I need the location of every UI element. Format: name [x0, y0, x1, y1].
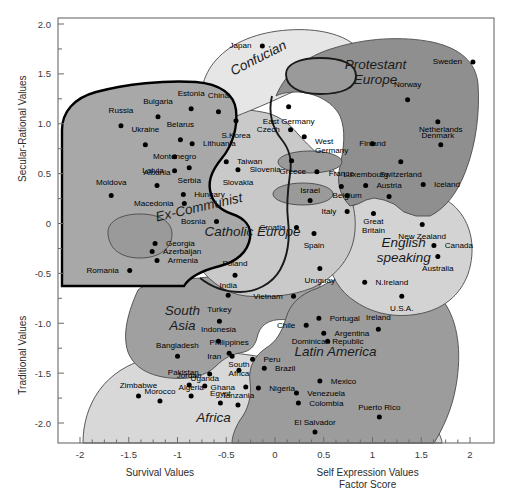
point-marker[interactable]	[136, 394, 141, 399]
point-marker[interactable]	[233, 273, 238, 278]
point-label: Peru	[263, 355, 280, 364]
point-marker[interactable]	[224, 159, 229, 164]
country-point[interactable]: Montenegro	[153, 152, 197, 161]
point-marker[interactable]	[250, 357, 255, 362]
point-label: Ireland	[366, 313, 391, 322]
point-marker[interactable]	[127, 268, 132, 273]
point-marker[interactable]	[234, 118, 239, 123]
point-marker[interactable]	[376, 327, 381, 332]
point-marker[interactable]	[243, 385, 248, 390]
point-marker[interactable]	[317, 379, 322, 384]
point-marker[interactable]	[143, 142, 148, 147]
point-marker[interactable]	[230, 354, 235, 359]
point-marker[interactable]	[345, 209, 350, 214]
zone-label: Africa	[195, 410, 231, 425]
point-label: Spain	[304, 241, 325, 250]
point-marker[interactable]	[291, 294, 296, 299]
point-marker[interactable]	[289, 158, 294, 163]
point-marker[interactable]	[398, 159, 403, 164]
point-marker[interactable]	[304, 323, 309, 328]
point-marker[interactable]	[294, 391, 299, 396]
point-marker[interactable]	[420, 222, 425, 227]
point-marker[interactable]	[286, 104, 291, 109]
point-marker[interactable]	[316, 316, 321, 321]
point-marker[interactable]	[387, 194, 392, 199]
point-label: Indonesia	[201, 325, 237, 334]
point-marker[interactable]	[172, 168, 177, 173]
zone-label-text: Protestant	[345, 57, 408, 72]
point-marker[interactable]	[296, 401, 301, 406]
point-marker[interactable]	[312, 429, 317, 434]
point-marker[interactable]	[226, 293, 231, 298]
point-marker[interactable]	[470, 59, 475, 64]
point-label: Great	[363, 217, 384, 226]
point-marker[interactable]	[155, 183, 160, 188]
zone-label: Latin America	[294, 344, 377, 359]
point-marker[interactable]	[262, 366, 267, 371]
point-marker[interactable]	[308, 198, 313, 203]
point-marker[interactable]	[218, 401, 223, 406]
point-label: Colombia	[309, 399, 344, 408]
point-marker[interactable]	[175, 354, 180, 359]
point-marker[interactable]	[302, 134, 307, 139]
point-marker[interactable]	[438, 142, 443, 147]
point-label: Slovakia	[223, 178, 254, 187]
point-marker[interactable]	[435, 254, 440, 259]
x-tick-label: 1.5	[415, 449, 428, 460]
point-label: Uruguay	[305, 276, 337, 285]
y-axis-title-secular: Secular-Rational Values	[17, 75, 28, 182]
point-label: Czech	[257, 125, 280, 134]
point-marker[interactable]	[377, 415, 382, 420]
point-marker[interactable]	[235, 167, 240, 172]
point-marker[interactable]	[435, 119, 440, 124]
point-marker[interactable]	[109, 193, 114, 198]
point-marker[interactable]	[214, 219, 219, 224]
point-label: Bosnia	[181, 217, 206, 226]
point-marker[interactable]	[312, 231, 317, 236]
point-label: Norway	[394, 80, 422, 89]
point-marker[interactable]	[431, 243, 436, 248]
point-marker[interactable]	[189, 106, 194, 111]
x-tick-label: 0.5	[317, 449, 330, 460]
point-label: South	[228, 360, 249, 369]
point-marker[interactable]	[190, 141, 195, 146]
point-marker[interactable]	[421, 182, 426, 187]
point-marker[interactable]	[405, 97, 410, 102]
point-marker[interactable]	[371, 211, 376, 216]
point-marker[interactable]	[235, 403, 240, 408]
point-marker[interactable]	[150, 249, 155, 254]
point-marker[interactable]	[363, 183, 368, 188]
point-marker[interactable]	[362, 280, 367, 285]
point-label: Austria	[376, 181, 402, 190]
point-label: Algeria	[179, 383, 205, 392]
point-marker[interactable]	[317, 266, 322, 271]
point-label: Finland	[359, 139, 386, 148]
point-marker[interactable]	[178, 137, 183, 142]
country-point[interactable]: SouthAfrica	[228, 360, 249, 378]
point-marker[interactable]	[157, 399, 162, 404]
point-marker[interactable]	[181, 192, 186, 197]
point-marker[interactable]	[187, 165, 192, 170]
point-marker[interactable]	[216, 109, 221, 114]
point-marker[interactable]	[256, 386, 261, 391]
point-marker[interactable]	[189, 394, 194, 399]
point-marker[interactable]	[217, 319, 222, 324]
point-marker[interactable]	[118, 123, 123, 128]
point-marker[interactable]	[339, 184, 344, 189]
country-point[interactable]: Finland	[359, 139, 386, 148]
point-label: N.Ireland	[376, 278, 409, 287]
country-point[interactable]: Belgium	[333, 191, 362, 200]
point-marker[interactable]	[321, 331, 326, 336]
point-marker[interactable]	[399, 294, 404, 299]
x-tick-label: -1.5	[121, 449, 137, 460]
point-label: Armenia	[168, 256, 199, 265]
point-label: Africa	[229, 369, 250, 378]
point-marker[interactable]	[314, 169, 319, 174]
point-label: Bangladesh	[156, 341, 199, 350]
y-tick-label: -2.0	[35, 418, 51, 429]
point-marker[interactable]	[153, 241, 158, 246]
point-label: Philippines	[210, 338, 249, 347]
point-marker[interactable]	[288, 127, 293, 132]
point-marker[interactable]	[156, 114, 161, 119]
point-marker[interactable]	[155, 258, 160, 263]
